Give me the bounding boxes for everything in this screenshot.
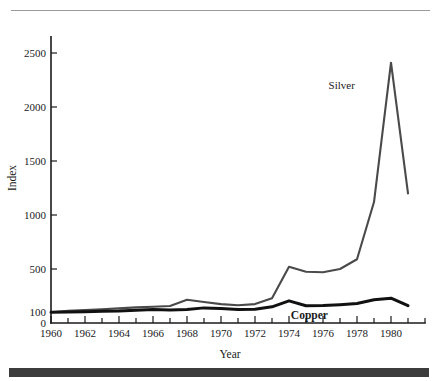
y-tick-label: 1000 (24, 209, 47, 221)
x-tick-label: 1962 (74, 327, 96, 339)
x-axis-title: Year (219, 348, 240, 360)
x-axis-tick-labels: 1960196219641966196819701972197419761978… (40, 327, 403, 339)
y-axis-ticks (51, 53, 57, 312)
x-tick-label: 1968 (176, 327, 199, 339)
y-tick-label: 100 (30, 306, 47, 318)
x-tick-label: 1966 (142, 327, 165, 339)
index-line-chart: 01005001000150020002500 1960196219641966… (0, 0, 436, 381)
x-tick-label: 1970 (210, 327, 233, 339)
series-line-silver (51, 63, 408, 312)
y-axis: 01005001000150020002500 (24, 37, 57, 329)
x-tick-label: 1978 (346, 327, 369, 339)
top-divider-rule (11, 10, 430, 11)
x-tick-label: 1964 (108, 327, 131, 339)
series-annotation-labels: SilverCopper (291, 79, 355, 323)
series-label-silver: Silver (329, 79, 356, 91)
y-tick-label: 500 (30, 263, 47, 275)
y-tick-label: 2500 (24, 47, 47, 59)
x-axis: 1960196219641966196819701972197419761978… (40, 316, 425, 339)
x-tick-label: 1980 (380, 327, 403, 339)
data-series-group (51, 63, 408, 312)
y-tick-label: 2000 (24, 101, 47, 113)
x-tick-label: 1960 (40, 327, 63, 339)
x-tick-label: 1974 (278, 327, 301, 339)
figure-container: 01005001000150020002500 1960196219641966… (0, 0, 436, 381)
series-label-copper: Copper (291, 309, 328, 322)
x-tick-label: 1976 (312, 327, 335, 339)
y-tick-label: 1500 (24, 155, 47, 167)
y-axis-title: Index (6, 165, 18, 191)
y-axis-tick-labels: 01005001000150020002500 (24, 47, 47, 329)
x-axis-ticks (51, 316, 425, 323)
bottom-decorative-bar (9, 368, 429, 377)
x-tick-label: 1972 (244, 327, 266, 339)
